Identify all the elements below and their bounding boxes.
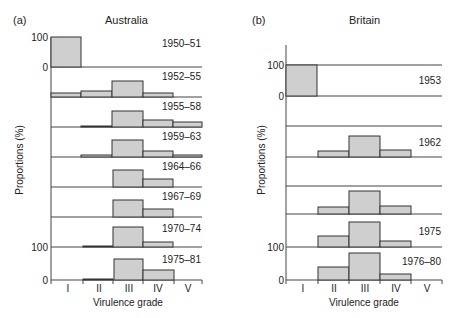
grade-label: III bbox=[125, 283, 133, 294]
bar-1975-IV bbox=[380, 241, 411, 247]
period-label: 1976–80 bbox=[402, 256, 441, 267]
grade-label: V bbox=[185, 283, 192, 294]
grade-label: V bbox=[424, 283, 431, 294]
grade-label: I bbox=[67, 283, 70, 294]
bar-1952-55-II bbox=[81, 91, 112, 97]
bar-1975-81-III bbox=[114, 259, 143, 280]
bar-1952-55-III bbox=[112, 81, 143, 97]
grade-label: IV bbox=[153, 283, 163, 294]
bars-britain bbox=[286, 65, 411, 280]
panel-label-b: (b) bbox=[252, 14, 265, 26]
bar-unlabeled-IV bbox=[380, 206, 411, 214]
bar-1959-63-II bbox=[81, 155, 112, 157]
bar-1975-III bbox=[349, 222, 380, 247]
period-label: 1964–66 bbox=[162, 161, 201, 172]
bar-1959-63-III bbox=[112, 140, 143, 157]
y-axis-label: Proportions (%) bbox=[14, 125, 25, 194]
period-label: 1959–63 bbox=[162, 131, 201, 142]
y-tick-0-bottom: 0 bbox=[278, 275, 284, 286]
bar-1964-66-III bbox=[113, 170, 143, 187]
bar-unlabeled-II bbox=[318, 207, 349, 214]
panel-australia: (a) Australia 100 0 100 0 Proportions (%… bbox=[13, 14, 202, 308]
grade-label: II bbox=[96, 283, 102, 294]
bar-1970-74-IV bbox=[143, 242, 173, 247]
x-axis-label-australia: Virulence grade bbox=[93, 297, 163, 308]
bar-1964-66-IV bbox=[143, 179, 173, 187]
period-label: 1952–55 bbox=[162, 71, 201, 82]
bar-1975-81-II bbox=[83, 279, 113, 280]
y-tick-0-bottom: 0 bbox=[42, 275, 48, 286]
bar-1955-58-II bbox=[81, 126, 112, 127]
x-tick-labels-australia: I II III IV V bbox=[67, 283, 192, 294]
y-axis-label: Proportions (%) bbox=[256, 125, 267, 194]
bar-1955-58-V bbox=[173, 122, 202, 127]
grade-label: II bbox=[331, 283, 337, 294]
bar-1952-55-IV bbox=[143, 93, 173, 97]
bar-1962-II bbox=[318, 151, 349, 157]
bar-1962-IV bbox=[380, 150, 411, 157]
bar-1959-63-V bbox=[173, 155, 202, 157]
period-label: 1950–51 bbox=[162, 38, 201, 49]
bar-1959-63-IV bbox=[143, 151, 173, 157]
period-label: 1975 bbox=[419, 226, 442, 237]
bar-1970-74-II bbox=[83, 246, 113, 247]
figure-canvas: (a) Australia 100 0 100 0 Proportions (%… bbox=[0, 0, 457, 318]
period-labels-britain: 1953 1962 1975 1976–80 bbox=[402, 75, 441, 267]
bar-1975-81-IV bbox=[143, 270, 174, 280]
grade-label: IV bbox=[391, 283, 401, 294]
bar-1955-58-III bbox=[112, 111, 143, 127]
row-baselines bbox=[286, 65, 442, 280]
panel-label-a: (a) bbox=[13, 14, 26, 26]
bar-1952-55-I bbox=[51, 93, 81, 97]
bar-1967-69-IV bbox=[143, 209, 173, 217]
bar-1953-I bbox=[286, 65, 317, 96]
bar-1962-III bbox=[349, 136, 380, 157]
period-label: 1967–69 bbox=[162, 191, 201, 202]
bar-1970-74-III bbox=[113, 227, 143, 247]
x-axis-label-britain: Virulence grade bbox=[329, 297, 399, 308]
y-tick-0-top: 0 bbox=[278, 91, 284, 102]
bar-1976-80-III bbox=[349, 253, 380, 280]
y-tick-100-bottom: 100 bbox=[267, 242, 284, 253]
y-tick-100-top: 100 bbox=[267, 60, 284, 71]
bar-1950-51-I bbox=[51, 37, 81, 67]
grade-label: I bbox=[302, 283, 305, 294]
panel-title-australia: Australia bbox=[105, 14, 149, 26]
panel-britain: (b) Britain 100 0 100 0 Proportions (%) bbox=[252, 14, 442, 308]
bar-1976-80-II bbox=[318, 267, 349, 280]
grade-label: III bbox=[361, 283, 369, 294]
y-tick-0-top: 0 bbox=[42, 62, 48, 73]
bar-1967-69-III bbox=[113, 200, 143, 217]
period-label: 1953 bbox=[419, 75, 442, 86]
y-tick-100-bottom: 100 bbox=[31, 242, 48, 253]
period-label: 1975–81 bbox=[162, 254, 201, 265]
y-tick-100-top: 100 bbox=[31, 32, 48, 43]
bar-1975-II bbox=[318, 236, 349, 247]
period-label: 1962 bbox=[419, 137, 442, 148]
bar-1955-58-IV bbox=[143, 120, 173, 127]
period-label: 1955–58 bbox=[162, 101, 201, 112]
panel-title-britain: Britain bbox=[349, 14, 380, 26]
bar-1976-80-IV bbox=[380, 274, 411, 280]
x-tick-labels-britain: I II III IV V bbox=[302, 283, 431, 294]
bar-unlabeled-III bbox=[349, 191, 380, 214]
period-label: 1970–74 bbox=[162, 223, 201, 234]
